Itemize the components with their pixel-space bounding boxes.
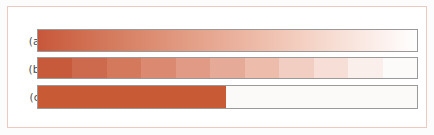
- discrete-segment-2: [72, 58, 106, 78]
- discrete-segment-11: [383, 58, 417, 78]
- colorbar-rows: (a) (b) (c): [8, 7, 426, 127]
- discrete-segment-9: [314, 58, 348, 78]
- discrete-segment-4: [141, 58, 175, 78]
- discrete-segment-row: [38, 58, 417, 78]
- discrete-segment-3: [107, 58, 141, 78]
- discrete-segment-5: [176, 58, 210, 78]
- colorbar-c-threshold: [37, 85, 418, 109]
- threshold-lower-block: [38, 86, 226, 108]
- discrete-segment-8: [279, 58, 313, 78]
- colorbar-row-c: (c): [8, 85, 426, 109]
- threshold-upper-block: [226, 86, 417, 108]
- colorbar-row-b: (b): [8, 57, 426, 81]
- discrete-segment-10: [348, 58, 382, 78]
- figure-frame: (a) (b) (c): [7, 6, 427, 128]
- discrete-segment-6: [210, 58, 244, 78]
- colorbar-row-a: (a): [8, 29, 426, 53]
- figure-canvas: (a) (b) (c): [0, 0, 434, 135]
- discrete-segment-7: [245, 58, 279, 78]
- colorbar-a-continuous: [37, 29, 418, 52]
- colorbar-b-discrete: [37, 57, 418, 79]
- discrete-segment-1: [38, 58, 72, 78]
- gradient-fill-continuous: [38, 30, 417, 51]
